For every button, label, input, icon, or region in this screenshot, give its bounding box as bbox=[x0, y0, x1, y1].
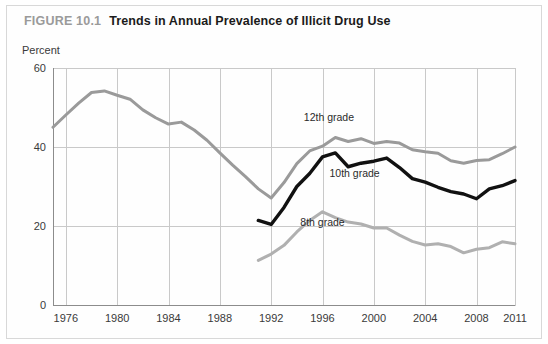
chart-plot-area: 0204060 19761980198419881992199620002004… bbox=[0, 0, 548, 344]
y-tick-labels: 0204060 bbox=[34, 62, 46, 311]
x-tick-label: 1988 bbox=[208, 312, 232, 324]
x-tick-label: 1984 bbox=[156, 312, 180, 324]
x-tick-label: 2011 bbox=[503, 312, 527, 324]
series-label-12th-grade: 12th grade bbox=[304, 111, 354, 123]
x-tick-label: 1996 bbox=[310, 312, 334, 324]
figure-container: FIGURE 10.1 Trends in Annual Prevalence … bbox=[0, 0, 548, 344]
series-label-8th-grade: 8th grade bbox=[300, 216, 345, 228]
series-line-12th-grade bbox=[53, 91, 515, 198]
series-label-10th-grade: 10th grade bbox=[329, 167, 379, 179]
y-tick-label: 60 bbox=[34, 62, 46, 74]
gridlines bbox=[53, 68, 516, 305]
x-tick-label: 2008 bbox=[464, 312, 488, 324]
series-line-8th-grade bbox=[258, 212, 515, 261]
line-chart-svg: 0204060 19761980198419881992199620002004… bbox=[0, 0, 548, 344]
y-tick-label: 0 bbox=[40, 299, 46, 311]
x-tick-labels: 1976198019841988199219962000200420082011 bbox=[54, 312, 527, 324]
x-tick-label: 2004 bbox=[413, 312, 437, 324]
axis-lines bbox=[54, 68, 516, 306]
x-tick-label: 1976 bbox=[54, 312, 78, 324]
y-tick-label: 20 bbox=[34, 220, 46, 232]
x-tick-label: 1992 bbox=[259, 312, 283, 324]
x-tick-label: 1980 bbox=[105, 312, 129, 324]
x-tick-label: 2000 bbox=[362, 312, 386, 324]
data-series-lines bbox=[53, 91, 515, 260]
y-tick-label: 40 bbox=[34, 141, 46, 153]
